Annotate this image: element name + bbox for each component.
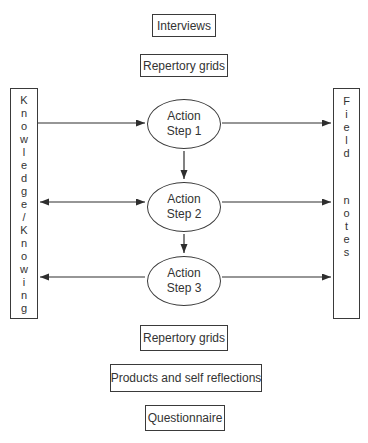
action-step-1-label: Action Step 1 — [160, 109, 208, 139]
interviews-box: Interviews — [152, 14, 216, 37]
products-reflections-box: Products and self reflections — [110, 364, 262, 392]
knowledge-knowing-label: K n o w l e d g e / K n o w i n g — [20, 94, 28, 315]
action-step-2-label: Action Step 2 — [160, 192, 208, 222]
repertory-grids-bottom-box: Repertory grids — [140, 325, 228, 351]
notes-label: n o t e s — [343, 194, 349, 259]
action-step-2-ellipse: Action Step 2 — [147, 182, 221, 232]
action-step-3-label: Action Step 3 — [160, 266, 208, 296]
field-notes-box: F i e l d n o t e s — [333, 88, 360, 319]
field-label: F i e l d — [343, 95, 350, 160]
questionnaire-box: Questionnaire — [145, 405, 225, 431]
questionnaire-label: Questionnaire — [148, 411, 223, 425]
action-step-3-ellipse: Action Step 3 — [147, 256, 221, 306]
diagram-canvas: Interviews Repertory grids K n o w l e d… — [0, 0, 368, 443]
knowledge-knowing-box: K n o w l e d g e / K n o w i n g — [10, 88, 38, 319]
repertory-grids-top-box: Repertory grids — [140, 54, 228, 77]
action-step-1-ellipse: Action Step 1 — [147, 99, 221, 149]
repertory-grids-bottom-label: Repertory grids — [143, 331, 225, 345]
interviews-label: Interviews — [157, 19, 211, 33]
products-reflections-label: Products and self reflections — [111, 371, 262, 385]
repertory-grids-top-label: Repertory grids — [143, 59, 225, 73]
